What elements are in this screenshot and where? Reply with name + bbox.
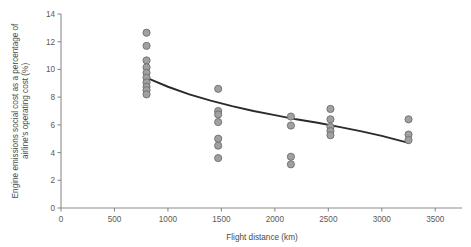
x-tick-label: 1500 (212, 215, 231, 224)
chart-svg: 02468101214 0500100015002000250030003500… (0, 0, 471, 247)
data-point (405, 116, 412, 123)
x-axis-tick-labels: 0500100015002000250030003500 (59, 215, 445, 224)
data-point (287, 153, 294, 160)
data-point (143, 57, 150, 64)
y-tick-label: 2 (50, 176, 55, 185)
data-point (327, 105, 334, 112)
y-axis-tick-labels: 02468101214 (46, 10, 56, 213)
y-tick-label: 8 (50, 93, 55, 102)
data-point (143, 91, 150, 98)
y-tick-label: 4 (50, 149, 55, 158)
y-axis-group: 02468101214 (46, 10, 61, 213)
y-tick-label: 10 (46, 65, 56, 74)
data-point (215, 111, 222, 118)
y-axis-title-line-2: airline's operating cost (%) (21, 63, 30, 159)
data-point (215, 85, 222, 92)
x-tick-label: 1000 (159, 215, 178, 224)
y-tick-label: 0 (50, 204, 55, 213)
data-point (327, 116, 334, 123)
data-point (215, 135, 222, 142)
y-tick-label: 6 (50, 121, 55, 130)
scatter-chart: 02468101214 0500100015002000250030003500… (0, 0, 471, 247)
data-point (215, 142, 222, 149)
data-point (143, 42, 150, 49)
x-tick-label: 500 (108, 215, 122, 224)
data-point (215, 118, 222, 125)
data-points-group (143, 29, 412, 168)
x-tick-label: 3500 (426, 215, 445, 224)
x-axis-group: 0500100015002000250030003500 (59, 208, 462, 224)
x-tick-label: 2000 (266, 215, 285, 224)
data-point (215, 155, 222, 162)
x-tick-label: 0 (59, 215, 64, 224)
x-axis-title: Flight distance (km) (226, 233, 298, 242)
data-point (143, 29, 150, 36)
y-tick-label: 12 (46, 38, 56, 47)
y-axis-title: Engine emissions social cost as a percen… (11, 23, 30, 198)
y-tick-label: 14 (46, 10, 56, 19)
trend-line-path (150, 79, 409, 143)
data-point (287, 113, 294, 120)
y-axis-title-line-1: Engine emissions social cost as a percen… (11, 23, 20, 198)
x-tick-label: 3000 (373, 215, 392, 224)
data-point (287, 161, 294, 168)
x-tick-label: 2500 (319, 215, 338, 224)
data-point (405, 137, 412, 144)
data-point (287, 122, 294, 129)
data-point (327, 132, 334, 139)
